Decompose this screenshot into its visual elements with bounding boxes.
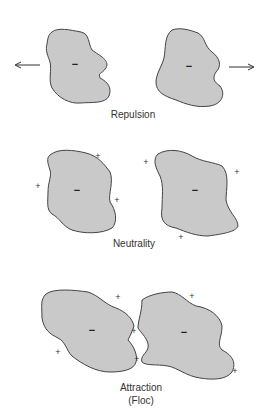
repulsion-label: Repulsion <box>111 109 155 120</box>
plus-sign: + <box>232 366 237 376</box>
minus-sign: − <box>89 324 95 336</box>
arrow-left-icon <box>15 62 40 68</box>
attraction-panel: − − + + + + + + Attraction (Floc) <box>42 290 238 406</box>
plus-sign: + <box>55 347 60 357</box>
plus-sign: + <box>189 291 194 301</box>
plus-sign: + <box>178 232 183 242</box>
plus-sign: + <box>234 167 239 177</box>
particle-left-neutrality <box>48 150 116 233</box>
plus-sign: + <box>134 354 139 364</box>
neutrality-label: Neutrality <box>113 238 155 249</box>
plus-sign: + <box>35 181 40 191</box>
neutrality-panel: − − + + + + + + Neutrality <box>35 150 239 249</box>
plus-sign: + <box>95 151 100 161</box>
colloid-diagram: − − Repulsion − − + + + + + + Neutrality… <box>0 0 266 414</box>
plus-sign: + <box>143 157 148 167</box>
attraction-label: Attraction <box>120 382 162 393</box>
minus-sign: − <box>72 58 78 70</box>
minus-sign: − <box>192 184 198 196</box>
minus-sign: − <box>186 60 192 72</box>
plus-sign: + <box>114 195 119 205</box>
repulsion-panel: − − Repulsion <box>15 29 254 120</box>
plus-sign: + <box>115 292 120 302</box>
minus-sign: − <box>181 326 187 338</box>
minus-sign: − <box>74 184 80 196</box>
floc-label: (Floc) <box>128 395 154 406</box>
arrow-right-icon <box>229 64 254 70</box>
plus-sign: + <box>131 326 136 336</box>
